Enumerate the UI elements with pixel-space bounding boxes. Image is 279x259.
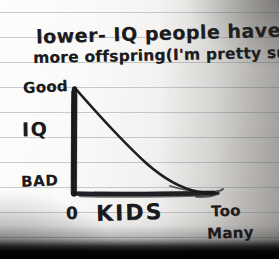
rule-line-0 <box>0 12 279 13</box>
x-axis-max-label-line1: Too <box>211 201 241 220</box>
rule-line-6 <box>0 162 279 163</box>
y-axis-bottom-label: BAD <box>21 171 59 190</box>
x-axis-origin-label: 0 <box>66 203 78 223</box>
rule-line-4 <box>0 112 279 113</box>
x-axis-max-label-line2: Many <box>207 223 254 243</box>
handwritten-chart-photo: lower- IQ people have more offspring(I'm… <box>0 0 279 259</box>
y-axis-top-label: Good <box>23 77 69 97</box>
y-axis-title: IQ <box>22 118 49 140</box>
x-axis-title: KIDS <box>96 199 164 226</box>
